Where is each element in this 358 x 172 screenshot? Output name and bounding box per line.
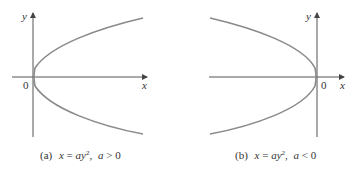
x-axis-label-b: x	[339, 79, 345, 91]
caption-b: (b) x = ay2, a < 0	[235, 149, 317, 162]
caption-a: (a) x = ay2, a > 0	[40, 149, 121, 162]
panel-a: y 0 x (a) x = ay2, a > 0	[12, 10, 147, 162]
y-axis-label-a: y	[21, 10, 27, 22]
origin-label-a: 0	[23, 79, 29, 91]
parabola-a	[34, 18, 143, 134]
caption-b-prefix: (b)	[235, 149, 248, 162]
parabola-b	[210, 18, 316, 134]
origin-label-b: 0	[321, 79, 327, 91]
diagram-canvas: y 0 x (a) x = ay2, a > 0 y 0 x (b) x = a…	[0, 0, 358, 172]
caption-a-prefix: (a)	[40, 149, 53, 162]
x-axis-label-a: x	[141, 79, 147, 91]
y-axis-label-b: y	[305, 10, 311, 22]
panel-b: y 0 x (b) x = ay2, a < 0	[209, 10, 345, 162]
